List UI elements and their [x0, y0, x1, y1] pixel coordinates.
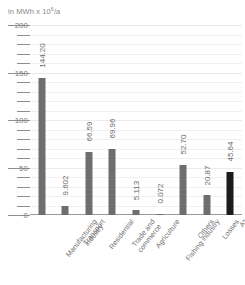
bar[interactable] — [62, 206, 69, 215]
bar[interactable] — [38, 78, 45, 215]
y-axis-tick-label: 150 — [15, 68, 28, 77]
y-axis-unit-prefix: in MWh x 10 — [8, 7, 51, 16]
bar-value-label: 52.70 — [179, 135, 188, 155]
bar-group[interactable]: 52.70 — [171, 25, 195, 215]
y-axis-tick — [17, 139, 30, 140]
y-axis-tick — [17, 35, 30, 36]
bar-value-label: 69.96 — [108, 119, 117, 139]
y-axis-tick — [17, 158, 30, 159]
y-axis: 200150100500 — [0, 25, 30, 215]
bar-value-label: 0.072 — [155, 184, 164, 204]
bar-group[interactable]: 9.602 — [54, 25, 78, 215]
y-axis-tick-label: 0 — [24, 211, 28, 220]
bar-group[interactable]: 20.87 — [195, 25, 219, 215]
y-axis-tick — [17, 177, 30, 178]
bar[interactable] — [203, 195, 210, 215]
y-axis-unit-caption: in MWh x 106/a — [8, 7, 60, 16]
y-axis-tick — [17, 101, 30, 102]
bar-value-label: 5.113 — [131, 180, 140, 199]
bar[interactable] — [109, 149, 116, 215]
x-axis-category-label: Agriculture — [154, 218, 181, 250]
y-axis-tick — [17, 92, 30, 93]
bar-group[interactable]: 69.96 — [101, 25, 125, 215]
bar[interactable] — [132, 210, 139, 215]
x-axis-category-label-line: Agriculture — [154, 218, 181, 250]
bar-group[interactable]: 5.113 — [124, 25, 148, 215]
y-axis-unit-suffix: /a — [54, 7, 60, 16]
y-axis-tick-label: 50 — [19, 163, 28, 172]
y-axis-tick-label: 100 — [15, 116, 28, 125]
x-axis-category-labels: ManufacturingindustryTransportResidentia… — [30, 216, 242, 285]
bar[interactable] — [180, 165, 187, 215]
x-axis-category-label: A* — [238, 218, 245, 229]
x-axis-category-label-line: A* — [238, 218, 245, 229]
y-axis-tick — [17, 54, 30, 55]
bar-group[interactable]: 66.59 — [77, 25, 101, 215]
bar-value-label: 66.59 — [84, 122, 93, 142]
y-axis-tick — [17, 206, 30, 207]
bar-value-label: 45.64 — [226, 142, 235, 162]
bar[interactable] — [227, 172, 234, 215]
y-axis-tick — [17, 187, 30, 188]
y-axis-tick-label: 200 — [15, 21, 28, 30]
y-axis-tick — [17, 63, 30, 64]
y-axis-tick — [17, 149, 30, 150]
bar-group[interactable]: 45.64 — [218, 25, 242, 215]
y-axis-tick — [17, 111, 30, 112]
y-axis-tick — [17, 82, 30, 83]
y-axis-tick — [17, 130, 30, 131]
bar-group[interactable]: 0.072 — [148, 25, 172, 215]
bar-group[interactable]: 144.20 — [30, 25, 54, 215]
bar[interactable] — [156, 214, 163, 215]
bar-value-label: 20.87 — [202, 165, 211, 185]
bar-value-label: 9.602 — [61, 176, 70, 196]
y-axis-tick — [17, 196, 30, 197]
plot-area: 144.209.60266.5969.965.1130.07252.7020.8… — [30, 25, 242, 215]
bar-chart: in MWh x 106/a 200150100500 144.209.6026… — [0, 0, 245, 285]
y-axis-tick — [17, 44, 30, 45]
bar-value-label: 144.20 — [37, 43, 46, 67]
bar[interactable] — [85, 152, 92, 215]
